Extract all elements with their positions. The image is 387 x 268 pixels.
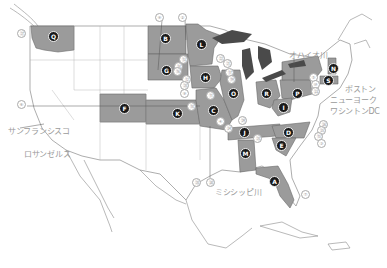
state-marker-p: P <box>292 88 303 99</box>
state-marker-q: Q <box>48 31 59 42</box>
number-marker: ⑲ <box>227 75 236 84</box>
number-marker: ⑱ <box>187 102 196 111</box>
city-label-washington-dc: ワシントンDC <box>330 108 380 116</box>
state-marker-e: E <box>276 140 287 151</box>
number-marker: ⑥ <box>17 100 26 109</box>
state-marker-m: M <box>240 148 251 159</box>
number-marker: ⑧ <box>155 13 164 22</box>
state-marker-s: S <box>323 75 334 86</box>
state-marker-o: O <box>228 88 239 99</box>
state-marker-f: F <box>119 103 130 114</box>
number-marker: ③ <box>317 139 326 148</box>
river-label-ohio: オハイオ川 <box>289 52 328 60</box>
state-marker-j: J <box>239 127 250 138</box>
number-marker: ㉔ <box>224 124 233 133</box>
number-marker: ⑯ <box>173 67 182 76</box>
number-marker: ㉙ <box>238 116 247 125</box>
city-label-new-york: ニューヨーク <box>330 97 376 105</box>
state-marker-b: B <box>160 33 171 44</box>
number-marker: ② <box>178 13 187 22</box>
city-label-los-angeles: ロサンゼルス <box>24 151 70 159</box>
river-label-mississippi: ミシシッピ川 <box>215 189 261 197</box>
cuba <box>260 222 318 238</box>
number-marker: ㉑ <box>223 59 232 68</box>
state-marker-l: L <box>196 39 207 50</box>
number-marker: ㉗ <box>17 29 26 38</box>
state-marker-c: C <box>208 105 219 116</box>
number-marker: ⑳ <box>192 178 201 187</box>
city-label-boston: ボストン <box>345 86 376 94</box>
number-marker: ㉘ <box>253 134 262 143</box>
hispaniola <box>328 242 350 250</box>
state-marker-r: R <box>261 88 272 99</box>
us-map: サンフランシスコ ロサンゼルス ボストン ニューヨーク ワシントンDC オハイオ… <box>0 0 387 268</box>
state-marker-k: K <box>172 108 183 119</box>
state-marker-d: D <box>283 127 294 138</box>
city-label-san-francisco: サンフランシスコ <box>8 128 70 136</box>
state-marker-h: H <box>200 72 211 83</box>
number-marker: ④ <box>216 117 225 126</box>
state-marker-i: I <box>278 102 289 113</box>
state-marker-a: A <box>269 176 280 187</box>
number-marker: ㉓ <box>311 87 320 96</box>
state-marker-n: N <box>328 63 339 74</box>
number-marker: ⑦ <box>301 190 310 199</box>
number-marker: ⑪ <box>206 91 215 100</box>
number-marker: ㉚ <box>206 178 215 187</box>
number-marker: ⑨ <box>180 89 189 98</box>
state-marker-g: G <box>161 65 172 76</box>
